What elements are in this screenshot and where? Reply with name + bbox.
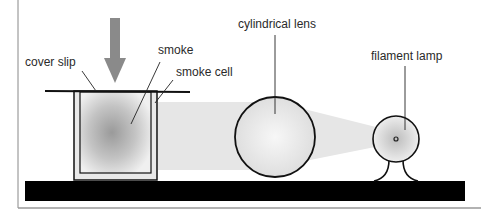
diagram-drawing (0, 0, 481, 212)
smoke-cell-diagram: cover slip smoke smoke cell cylindrical … (0, 0, 481, 212)
label-cylindrical-lens: cylindrical lens (238, 18, 316, 30)
label-smoke-cell: smoke cell (176, 66, 233, 78)
label-smoke: smoke (158, 44, 193, 56)
label-filament-lamp: filament lamp (371, 50, 442, 62)
label-cover-slip: cover slip (25, 56, 76, 68)
down-arrow-icon (104, 18, 126, 83)
optical-bench (25, 181, 465, 201)
smoke-cell (74, 91, 157, 180)
cover-slip (45, 91, 190, 92)
filament-lamp (372, 116, 419, 181)
